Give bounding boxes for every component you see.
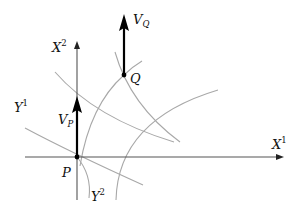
diagram-canvas: X2 X1 Y1 Y2 VP VQ P Q <box>0 0 300 216</box>
curve-y2-right <box>116 90 218 200</box>
curve-y2-through-p-lower <box>77 157 90 198</box>
label-y2: Y2 <box>91 187 105 204</box>
label-q: Q <box>130 71 141 86</box>
point-p <box>75 155 80 160</box>
label-x1-axis: X1 <box>271 135 287 152</box>
label-vp: VP <box>58 112 73 129</box>
label-vq: VQ <box>133 12 149 29</box>
point-q <box>122 73 127 78</box>
label-y1: Y1 <box>14 98 28 115</box>
label-x2-axis: X2 <box>51 38 67 55</box>
label-p: P <box>61 165 71 180</box>
curve-y1-upper <box>55 72 174 142</box>
